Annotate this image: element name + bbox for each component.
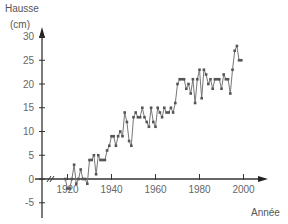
data-point-marker — [64, 178, 67, 181]
data-point-marker — [156, 106, 159, 109]
data-point-marker — [231, 68, 234, 71]
data-point-marker — [150, 106, 153, 109]
data-point-marker — [139, 116, 142, 119]
x-tick-label: 1980 — [188, 184, 211, 195]
data-point-marker — [198, 68, 201, 71]
data-point-marker — [196, 78, 199, 81]
data-point-marker — [159, 111, 162, 114]
y-tick-label: 15 — [23, 102, 35, 113]
y-tick-label: 0 — [28, 174, 34, 185]
y-tick-label: 10 — [23, 126, 35, 137]
data-point-marker — [115, 144, 118, 147]
data-point-marker — [126, 121, 129, 124]
x-tick-label: 2000 — [232, 184, 255, 195]
data-point-marker — [167, 111, 170, 114]
data-point-marker — [79, 168, 82, 171]
data-point-marker — [161, 116, 164, 119]
data-point-marker — [200, 97, 203, 100]
data-point-marker — [152, 121, 155, 124]
data-point-marker — [203, 68, 206, 71]
data-point-marker — [172, 111, 175, 114]
data-point-marker — [75, 182, 78, 185]
data-point-marker — [95, 173, 98, 176]
data-point-marker — [176, 83, 179, 86]
data-point-marker — [104, 159, 107, 162]
data-point-marker — [97, 154, 100, 157]
data-point-marker — [106, 149, 109, 152]
data-point-marker — [222, 73, 225, 76]
y-tick-label: -5 — [25, 197, 34, 208]
data-point-marker — [132, 116, 135, 119]
data-point-marker — [192, 78, 195, 81]
data-point-marker — [154, 125, 157, 128]
data-point-marker — [183, 78, 186, 81]
data-point-marker — [240, 59, 243, 62]
data-point-marker — [141, 106, 144, 109]
data-point-marker — [209, 78, 212, 81]
data-point-marker — [145, 121, 148, 124]
data-point-marker — [90, 159, 93, 162]
line-chart: -505101520253019201940196019802000 — [0, 0, 288, 224]
data-point-marker — [211, 87, 214, 90]
data-point-marker — [77, 178, 80, 181]
data-point-marker — [174, 102, 177, 105]
y-tick-label: 30 — [23, 31, 35, 42]
y-tick-label: 20 — [23, 79, 35, 90]
data-point-marker — [117, 135, 120, 138]
data-point-marker — [119, 130, 122, 133]
data-point-marker — [189, 92, 192, 95]
x-tick-label: 1940 — [100, 184, 123, 195]
x-axis-arrow-icon — [258, 176, 268, 182]
data-point-marker — [68, 187, 71, 190]
data-point-marker — [112, 135, 115, 138]
data-line — [65, 46, 241, 189]
data-point-marker — [108, 144, 111, 147]
data-point-marker — [86, 182, 89, 185]
x-tick-label: 1960 — [144, 184, 167, 195]
data-point-marker — [170, 106, 173, 109]
data-point-marker — [73, 163, 76, 166]
data-point-marker — [229, 92, 232, 95]
data-point-marker — [163, 106, 166, 109]
data-point-marker — [236, 45, 239, 48]
data-point-marker — [84, 178, 87, 181]
data-point-marker — [185, 87, 188, 90]
data-point-marker — [227, 78, 230, 81]
data-point-marker — [123, 111, 126, 114]
data-point-marker — [148, 125, 151, 128]
data-point-marker — [93, 154, 96, 157]
data-point-marker — [130, 144, 133, 147]
data-point-marker — [194, 102, 197, 105]
data-point-marker — [218, 78, 221, 81]
data-point-marker — [220, 87, 223, 90]
y-tick-label: 5 — [28, 150, 34, 161]
data-point-marker — [207, 83, 210, 86]
data-point-marker — [187, 83, 190, 86]
data-point-marker — [134, 111, 137, 114]
data-point-marker — [143, 116, 146, 119]
data-point-marker — [205, 73, 208, 76]
y-tick-label: 25 — [23, 55, 35, 66]
data-point-marker — [233, 49, 236, 52]
data-point-marker — [128, 140, 131, 143]
data-point-marker — [71, 178, 74, 181]
data-point-marker — [121, 135, 124, 138]
